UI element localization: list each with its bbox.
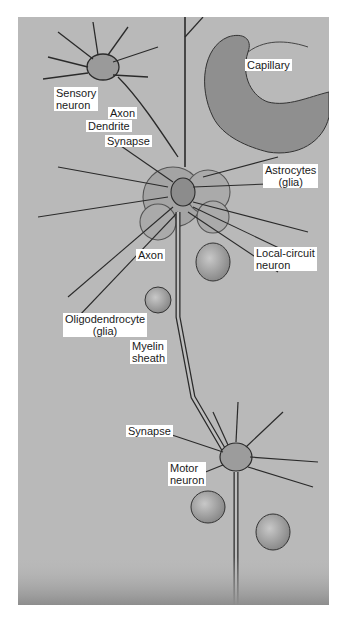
label-line: Sensory: [56, 87, 96, 99]
label-synapse-top: Synapse: [105, 135, 152, 147]
label-line: neuron: [256, 259, 315, 271]
label-motor-neuron: Motor neuron: [168, 462, 206, 486]
label-line: Astrocytes: [265, 164, 316, 176]
label-line: Motor: [170, 462, 204, 474]
label-axon-mid: Axon: [136, 249, 165, 261]
label-dendrite: Dendrite: [86, 120, 132, 132]
illustration-panel: Capillary Sensory neuron Axon Dendrite S…: [18, 17, 329, 605]
label-line: Oligodendrocyte: [65, 313, 145, 325]
label-line: neuron: [56, 99, 96, 111]
label-sensory-neuron: Sensory neuron: [54, 87, 98, 111]
label-line: neuron: [170, 474, 204, 486]
label-axon-top: Axon: [108, 107, 137, 119]
label-line: (glia): [265, 176, 316, 188]
label-line: (glia): [65, 325, 145, 337]
label-local-circuit-neuron: Local-circuit neuron: [254, 247, 317, 271]
label-line: sheath: [132, 352, 165, 364]
label-line: Myelin: [132, 340, 165, 352]
label-myelin-sheath: Myelin sheath: [130, 340, 167, 364]
label-line: Local-circuit: [256, 247, 315, 259]
capillary-shape: [205, 35, 329, 153]
label-synapse-bottom: Synapse: [126, 425, 173, 437]
label-capillary: Capillary: [245, 59, 292, 71]
label-oligodendrocyte: Oligodendrocyte (glia): [63, 313, 147, 337]
label-astrocytes: Astrocytes (glia): [263, 164, 318, 188]
